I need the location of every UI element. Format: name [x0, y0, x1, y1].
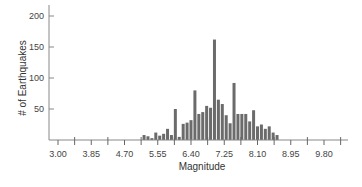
histogram-bar [236, 114, 239, 140]
x-tick-label: 5.55 [149, 149, 167, 159]
histogram-bar [193, 90, 196, 140]
histogram-bar [248, 121, 251, 140]
histogram-bar [229, 123, 232, 140]
histogram-bar [217, 100, 220, 140]
histogram-bar [252, 110, 255, 140]
histogram-bar [256, 126, 259, 140]
bars [143, 40, 279, 140]
histogram-bar [213, 40, 216, 140]
histogram-bar [158, 136, 161, 140]
x-tick-label: 3.00 [49, 149, 67, 159]
y-ticks: 50100150200 [29, 11, 54, 114]
histogram-bar [264, 129, 267, 140]
x-tick-label: 3.85 [82, 149, 100, 159]
histogram-bar [186, 123, 189, 140]
x-tick-label: 8.95 [282, 149, 300, 159]
histogram-bar [233, 83, 236, 140]
histogram-bar [154, 133, 157, 140]
histogram-bar [166, 129, 169, 140]
x-tick-label: 6.40 [182, 149, 200, 159]
histogram-bar [182, 124, 185, 140]
histogram-bar [162, 134, 165, 140]
histogram-bar [197, 114, 200, 140]
histogram-bar [190, 120, 193, 140]
y-tick-label: 50 [34, 104, 44, 114]
y-tick-label: 200 [29, 11, 44, 21]
histogram-bar [201, 112, 204, 140]
y-axis-title: # of Earthquakes [17, 40, 28, 116]
histogram-bar [244, 114, 247, 140]
y-tick-label: 150 [29, 42, 44, 52]
histogram-bar [221, 104, 224, 140]
y-tick-label: 100 [29, 73, 44, 83]
histogram-bar [170, 135, 173, 140]
histogram-bar [260, 125, 263, 141]
histogram-bar [209, 108, 212, 140]
histogram-bar [143, 135, 146, 140]
histogram-bar [174, 109, 177, 140]
histogram-bar [205, 106, 208, 140]
histogram-bar [240, 114, 243, 140]
x-tick-label: 8.10 [249, 149, 267, 159]
histogram-bar [225, 115, 228, 140]
histogram-chart: 50100150200 3.003.854.705.556.407.258.10… [0, 0, 362, 187]
x-axis-title: Magnitude [179, 161, 226, 172]
x-tick-label: 7.25 [215, 149, 233, 159]
x-tick-label: 9.80 [315, 149, 333, 159]
histogram-bar [276, 135, 279, 140]
x-tick-label: 4.70 [116, 149, 134, 159]
histogram-bar [146, 136, 149, 140]
histogram-bar [268, 126, 271, 140]
